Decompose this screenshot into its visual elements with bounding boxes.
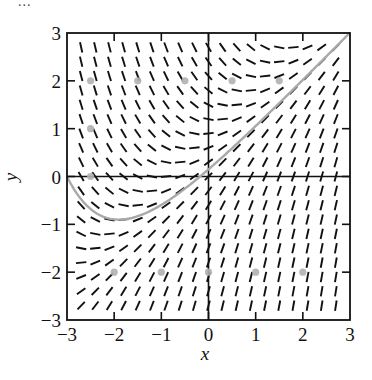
- y-tick-label: 2: [52, 71, 62, 92]
- slope-segment: [320, 114, 324, 123]
- slope-segment: [147, 203, 157, 207]
- slope-segment: [220, 186, 225, 195]
- slope-segment: [120, 259, 127, 266]
- slope-segment: [221, 258, 224, 268]
- slope-segment: [164, 71, 169, 80]
- slope-segment: [264, 286, 266, 296]
- slope-segment: [276, 115, 282, 123]
- slope-segment: [135, 273, 140, 282]
- slope-segment: [161, 145, 170, 150]
- slope-segment: [260, 45, 269, 50]
- slope-segment: [134, 245, 141, 252]
- slope-segment: [246, 59, 255, 64]
- slope-segment: [148, 230, 155, 237]
- slope-segment: [218, 104, 228, 106]
- slope-segment: [164, 57, 168, 67]
- slope-segment: [191, 187, 198, 194]
- slope-segment: [305, 100, 310, 109]
- slope-segment: [77, 232, 86, 237]
- slope-segment: [133, 205, 143, 206]
- slope-field-chart: −3−2−10123 −3−2−10123 x y: [0, 0, 372, 380]
- slope-segment: [278, 200, 281, 210]
- x-tick-labels: −3−2−10123: [57, 324, 355, 345]
- slope-segment: [247, 116, 255, 122]
- slope-segment: [147, 160, 156, 165]
- slope-segment: [305, 114, 310, 123]
- slope-segment: [278, 186, 281, 196]
- slope-segment: [307, 286, 309, 296]
- slope-segment: [292, 286, 294, 296]
- slope-segment: [107, 143, 112, 152]
- slope-segment: [164, 42, 168, 52]
- slope-segment: [150, 42, 153, 52]
- slope-segment: [79, 129, 83, 139]
- slope-segment: [335, 200, 337, 210]
- slope-segment: [250, 272, 252, 282]
- slope-segment: [77, 288, 85, 294]
- slope-segment: [321, 229, 323, 239]
- slope-segment: [321, 257, 323, 267]
- slope-segment: [232, 89, 242, 91]
- slope-segment: [119, 245, 127, 251]
- slope-segment: [78, 187, 84, 196]
- slope-segment: [76, 262, 86, 263]
- slope-segment: [178, 43, 182, 53]
- y-tick-label: 3: [52, 23, 62, 44]
- slope-segment: [232, 117, 242, 121]
- slope-segment: [107, 301, 112, 310]
- slope-segment: [94, 71, 97, 81]
- slope-segment: [80, 71, 83, 81]
- slope-segment: [91, 202, 99, 209]
- marked-point: [228, 77, 235, 84]
- slope-segment: [177, 101, 184, 109]
- slope-segment: [306, 229, 308, 239]
- slope-segment: [262, 143, 267, 152]
- slope-segment: [278, 272, 280, 282]
- slope-segment: [335, 257, 337, 267]
- slope-segment: [94, 42, 96, 52]
- slope-segment: [250, 258, 253, 268]
- slope-segment: [150, 57, 154, 67]
- slope-segment: [80, 57, 82, 67]
- slope-segment: [321, 272, 323, 282]
- slope-segment: [164, 258, 169, 267]
- slope-segment: [264, 301, 266, 311]
- slope-segment: [261, 102, 269, 108]
- slope-segment: [150, 272, 155, 281]
- slope-segment: [77, 216, 85, 223]
- slope-segment: [220, 201, 225, 210]
- slope-segment: [278, 229, 281, 239]
- slope-segment: [122, 86, 126, 96]
- marked-point: [87, 77, 94, 84]
- marked-point: [158, 269, 165, 276]
- slope-segment: [107, 129, 112, 138]
- slope-segment: [120, 273, 126, 281]
- y-tick-label: −1: [41, 214, 61, 235]
- slope-segment: [248, 158, 253, 167]
- slope-segment: [148, 145, 156, 152]
- slope-segment: [161, 161, 171, 163]
- slope-segment: [119, 188, 128, 193]
- marked-point: [205, 269, 212, 276]
- slope-segment: [134, 159, 142, 166]
- slope-segment: [335, 272, 337, 282]
- slope-segment: [250, 243, 253, 253]
- slope-segment: [221, 215, 225, 224]
- slope-segment: [91, 274, 99, 280]
- slope-segment: [335, 186, 337, 196]
- slope-segment: [218, 88, 227, 93]
- y-tick-label: −2: [41, 262, 61, 283]
- x-tick-label: 3: [345, 324, 355, 345]
- slope-segment: [277, 143, 282, 152]
- slope-segment: [233, 43, 240, 51]
- slope-segment: [94, 85, 97, 95]
- slope-segment: [121, 287, 126, 296]
- slope-segment: [121, 144, 127, 153]
- slope-segment: [119, 232, 129, 236]
- slope-segment: [250, 301, 252, 311]
- slope-segment: [320, 200, 322, 210]
- slope-segment: [292, 243, 294, 253]
- slope-segment: [150, 301, 154, 311]
- slope-segment: [120, 158, 127, 166]
- slope-segment: [264, 243, 267, 253]
